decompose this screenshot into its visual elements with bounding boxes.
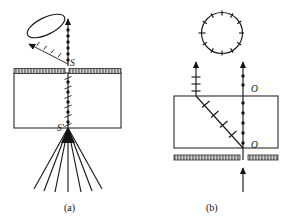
screen-bar-b [174, 155, 278, 160]
screen-bar-a-right [69, 69, 121, 74]
screen-bar-b-left [174, 155, 240, 160]
screen-bar-a-left [14, 69, 65, 74]
panel-caption-a: (a) [64, 202, 75, 214]
image-label-s-prime: S' [57, 123, 65, 133]
panel-caption-b: (b) [206, 202, 218, 214]
figure-root: S S' (a) [0, 0, 287, 221]
o-ray-label-bottom: O [251, 140, 258, 150]
screen-bar-b-right [248, 155, 278, 160]
source-label-s: S [70, 58, 75, 68]
o-ray-label-top: O [251, 84, 258, 94]
optics-double-refraction-figure: S S' (a) [0, 0, 287, 221]
